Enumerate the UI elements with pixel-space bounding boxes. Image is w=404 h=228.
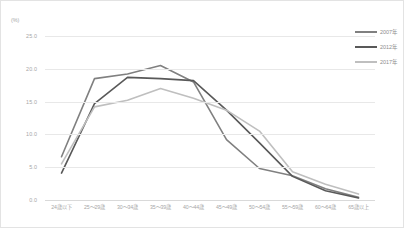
x-tick-label: 50〜54歳 <box>243 203 276 210</box>
legend-item[interactable]: 2007年 <box>355 28 397 36</box>
legend-swatch-icon <box>355 61 377 63</box>
gridline-10.0 <box>45 134 375 135</box>
y-tick-label: 0.0 <box>3 197 37 203</box>
plot-area <box>45 36 375 200</box>
series-line-2017年 <box>62 88 359 194</box>
gridline-20.0 <box>45 69 375 70</box>
y-tick-label: 20.0 <box>3 66 37 72</box>
y-tick-label: 15.0 <box>3 99 37 105</box>
legend-label: 2017年 <box>380 58 397 66</box>
y-tick-label: 5.0 <box>3 164 37 170</box>
x-tick-label: 45〜49歳 <box>210 203 243 210</box>
line-chart: (%) 24歳以下25〜29歳30〜34歳35〜39歳40〜44歳45〜49歳5… <box>0 0 404 228</box>
series-lines <box>45 36 375 200</box>
legend-item[interactable]: 2017年 <box>355 58 397 66</box>
y-axis-unit-label: (%) <box>11 17 19 23</box>
legend-item[interactable]: 2012年 <box>355 43 397 51</box>
gridline-0.0 <box>45 200 375 201</box>
x-tick-label: 55〜59歳 <box>276 203 309 210</box>
x-tick-label: 40〜44歳 <box>177 203 210 210</box>
x-tick-label: 35〜39歳 <box>144 203 177 210</box>
legend-label: 2007年 <box>380 28 397 36</box>
y-tick-label: 25.0 <box>3 33 37 39</box>
x-tick-label: 60〜64歳 <box>309 203 342 210</box>
legend-swatch-icon <box>355 31 377 33</box>
legend-swatch-icon <box>355 46 377 48</box>
x-tick-label: 24歳以下 <box>45 203 78 210</box>
gridline-15.0 <box>45 102 375 103</box>
gridline-25.0 <box>45 36 375 37</box>
x-tick-label: 25〜29歳 <box>78 203 111 210</box>
x-tick-label: 65歳以上 <box>342 203 375 210</box>
legend: 2007年2012年2017年 <box>355 28 397 66</box>
x-axis: 24歳以下25〜29歳30〜34歳35〜39歳40〜44歳45〜49歳50〜54… <box>45 203 375 210</box>
series-line-2007年 <box>62 66 359 198</box>
x-tick-label: 30〜34歳 <box>111 203 144 210</box>
gridline-5.0 <box>45 167 375 168</box>
legend-label: 2012年 <box>380 43 397 51</box>
y-tick-label: 10.0 <box>3 131 37 137</box>
